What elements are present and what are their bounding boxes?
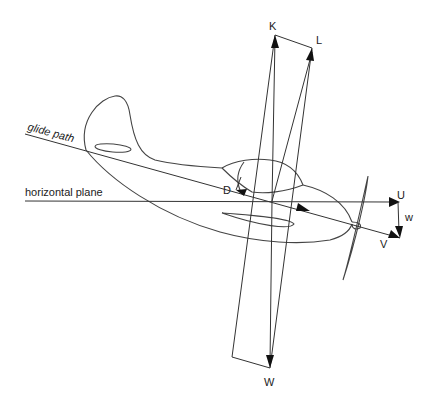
label-W: W — [264, 376, 275, 388]
glide-force-diagram: glide path horizontal plane K L D U w V … — [0, 0, 430, 406]
label-w: w — [404, 211, 413, 223]
label-horizontal-plane: horizontal plane — [25, 186, 103, 198]
label-L: L — [316, 34, 322, 46]
label-U: U — [397, 189, 405, 201]
vector-L — [272, 52, 312, 201]
label-glide-path: glide path — [26, 120, 75, 144]
arrowhead-K — [271, 35, 279, 48]
arrowhead-W — [266, 355, 274, 368]
label-D: D — [223, 184, 231, 196]
label-K: K — [269, 20, 277, 32]
arrowhead-L — [306, 48, 314, 61]
label-V: V — [380, 238, 388, 250]
vector-K — [272, 38, 275, 201]
arrowhead-glide — [296, 203, 310, 211]
